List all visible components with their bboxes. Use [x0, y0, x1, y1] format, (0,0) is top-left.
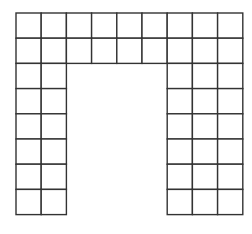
grid-cell: [41, 189, 66, 214]
grid-cell: [41, 89, 66, 114]
grid-cell: [192, 139, 217, 164]
grid-cell: [41, 114, 66, 139]
grid-cell: [41, 63, 66, 88]
grid-cell: [142, 38, 167, 63]
grid-cell: [167, 38, 192, 63]
grid-cell: [167, 13, 192, 38]
grid-cell: [16, 139, 41, 164]
grid-cell: [192, 38, 217, 63]
grid-cell: [41, 13, 66, 38]
grid-cell: [66, 38, 91, 63]
grid-cell: [16, 13, 41, 38]
grid-cell: [167, 164, 192, 189]
grid-cell: [218, 189, 243, 214]
grid-cell: [66, 13, 91, 38]
grid-cell: [16, 89, 41, 114]
grid-cell: [192, 63, 217, 88]
grid-cell: [218, 164, 243, 189]
grid-cell: [16, 114, 41, 139]
grid-cell: [218, 63, 243, 88]
grid-cell: [92, 38, 117, 63]
grid-cell: [41, 38, 66, 63]
grid-cell: [218, 139, 243, 164]
grid-cell: [16, 189, 41, 214]
grid-cell: [41, 164, 66, 189]
grid-cell: [167, 139, 192, 164]
grid-cell: [218, 38, 243, 63]
grid-cell: [167, 189, 192, 214]
grid-cell: [218, 114, 243, 139]
grid-cell: [92, 13, 117, 38]
arch-grid-diagram: [0, 0, 252, 234]
grid-cell: [142, 13, 167, 38]
grid-cell: [167, 89, 192, 114]
grid-cell: [16, 38, 41, 63]
grid-cell: [218, 13, 243, 38]
grid-cell: [167, 63, 192, 88]
grid-cell: [192, 13, 217, 38]
grid-cell: [192, 114, 217, 139]
grid-cell: [167, 114, 192, 139]
grid-cell: [218, 89, 243, 114]
grid-cell: [117, 38, 142, 63]
grid-cell: [41, 139, 66, 164]
grid-cell: [16, 63, 41, 88]
grid-cell: [117, 13, 142, 38]
grid-cell: [16, 164, 41, 189]
grid-cell: [192, 164, 217, 189]
grid-cell: [192, 189, 217, 214]
grid-cell: [192, 89, 217, 114]
